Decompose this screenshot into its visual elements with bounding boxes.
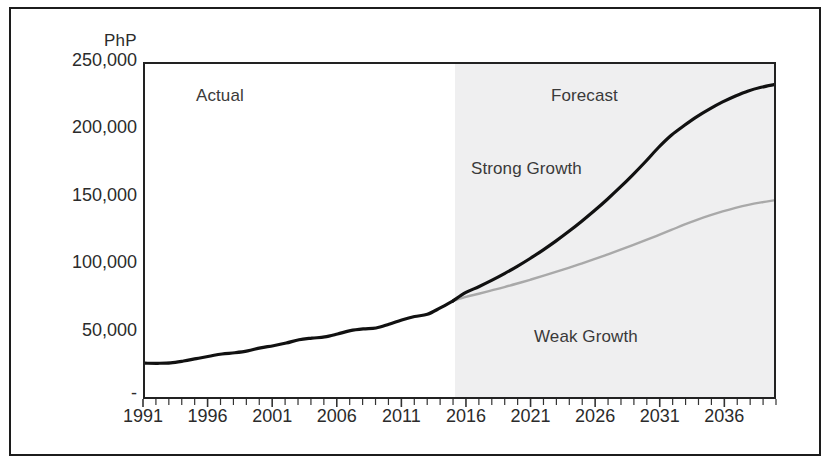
x-tick-label: 2021 — [496, 406, 566, 427]
x-tick-label: 2006 — [302, 406, 372, 427]
x-tick-label: 1991 — [108, 406, 178, 427]
x-tick-label: 2016 — [431, 406, 501, 427]
annotation-forecast: Forecast — [551, 86, 618, 106]
x-tick-label: 1996 — [173, 406, 243, 427]
annotation-weak-growth: Weak Growth — [534, 327, 638, 347]
x-tick-label: 2026 — [560, 406, 630, 427]
x-tick-label: 2031 — [625, 406, 695, 427]
x-axis-tick-labels: 1991199620012006201120162021202620312036 — [0, 0, 831, 470]
annotation-strong-growth: Strong Growth — [471, 159, 582, 179]
x-tick-label: 2011 — [366, 406, 436, 427]
x-tick-label: 2001 — [237, 406, 307, 427]
chart-figure: PhP 250,000200,000150,000100,00050,000- … — [0, 0, 831, 470]
annotation-actual: Actual — [196, 86, 244, 106]
x-tick-label: 2036 — [689, 406, 759, 427]
